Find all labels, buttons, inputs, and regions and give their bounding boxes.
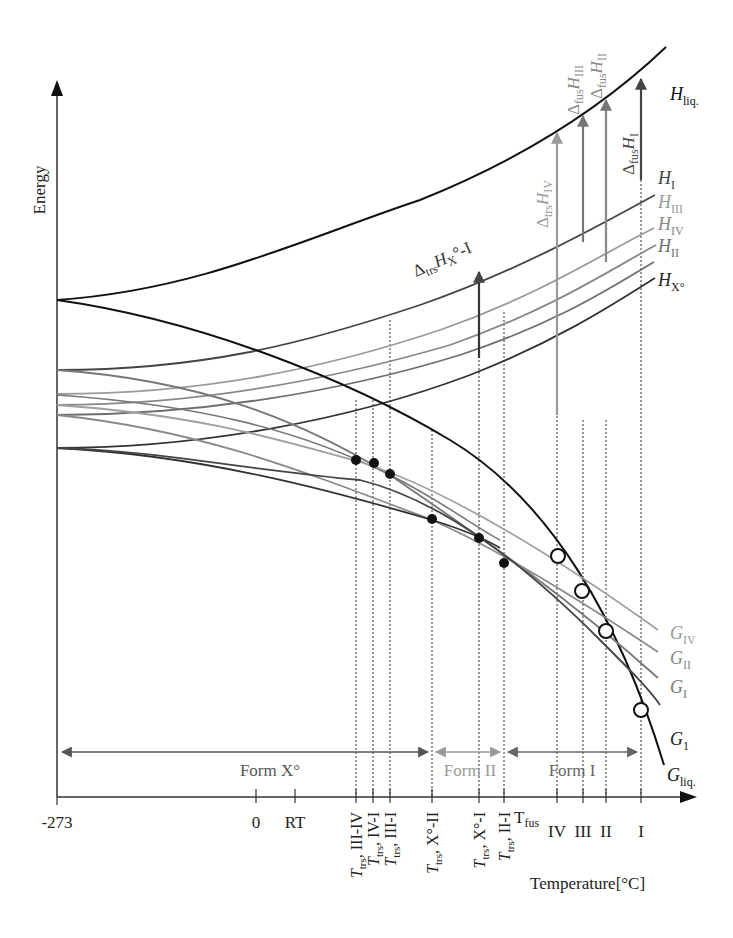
curve-g-iv [57, 405, 658, 630]
svg-text:HIII: HIII [657, 192, 683, 216]
svg-text:IV: IV [548, 822, 567, 841]
ttrs-labels: Ttrs, III-IV Ttrs, IV-I Ttrs, III-I Ttrs… [348, 812, 516, 879]
melting-points [551, 549, 648, 717]
svg-text:I: I [638, 822, 644, 841]
curve-h-i [57, 195, 655, 370]
gibbs-curves [57, 300, 664, 765]
svg-text:HIV: HIV [657, 214, 684, 238]
svg-text:III: III [575, 822, 592, 841]
tick-0: 0 [252, 813, 261, 832]
svg-text:HII: HII [657, 236, 679, 260]
svg-text:ΔfusHIII: ΔfusHIII [564, 65, 586, 115]
svg-text:Tfus: Tfus [514, 808, 539, 830]
x-axis-arrowhead [680, 791, 697, 803]
svg-text:GI: GI [670, 677, 687, 701]
g-curve-labels: GIV GII GI G1 Gliq. [667, 623, 696, 789]
label-form-i: Form I [549, 761, 596, 780]
x-axis-label: Temperature[°C] [530, 874, 645, 893]
curve-g-1 [57, 448, 660, 705]
curve-g-liq [57, 300, 664, 765]
tick-m273: -273 [41, 813, 72, 832]
y-axis-arrowhead [51, 80, 63, 96]
svg-text:Ttrs, X°-II: Ttrs, X°-II [424, 812, 444, 874]
svg-text:GIV: GIV [670, 623, 696, 647]
svg-text:ΔtrsHIV: ΔtrsHIV [533, 180, 555, 228]
h-curve-labels: Hliq. HI HIII HIV HII HX° [657, 84, 699, 294]
transition-guides [356, 180, 641, 797]
svg-text:ΔtrsHX°-I: ΔtrsHX°-I [410, 238, 476, 283]
svg-text:Ttrs, II-I: Ttrs, II-I [496, 812, 516, 861]
curve-g-ii [57, 415, 658, 652]
svg-text:HI: HI [657, 168, 675, 192]
svg-text:Ttrs, X°-I: Ttrs, X°-I [471, 812, 491, 869]
transition-points [351, 455, 509, 568]
svg-text:GII: GII [670, 648, 691, 672]
svg-text:G1: G1 [670, 729, 689, 753]
curve-h-ii [57, 262, 654, 415]
svg-text:HX°: HX° [657, 270, 685, 294]
tick-rt: RT [285, 813, 306, 832]
curve-h-x [57, 278, 655, 448]
label-form-ii: Form II [444, 761, 497, 780]
energy-temperature-diagram: Energy Temperature[°C] -273 0 RT Tfus IV… [0, 0, 733, 938]
svg-text:Ttrs, III-I: Ttrs, III-I [382, 812, 402, 867]
svg-text:ΔfusHII: ΔfusHII [587, 53, 609, 99]
svg-text:Gliq.: Gliq. [667, 765, 696, 789]
tfus-labels: Tfus IV III II I [514, 808, 644, 841]
svg-text:II: II [600, 822, 612, 841]
y-axis-label: Energy [30, 165, 49, 214]
svg-text:Hliq.: Hliq. [669, 84, 699, 108]
label-form-x: Form X° [240, 761, 300, 780]
curve-g-i [57, 370, 658, 678]
axes [51, 80, 697, 805]
svg-text:ΔfusHI: ΔfusHI [619, 133, 641, 175]
